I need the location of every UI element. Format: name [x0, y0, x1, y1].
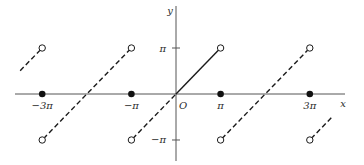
x-tick-label: −3π	[32, 100, 54, 111]
axes	[15, 6, 345, 161]
open-point	[128, 137, 134, 143]
segment-k-0-right	[176, 49, 219, 94]
x-tick-label: 3π	[303, 100, 316, 111]
x-tick-label: −π	[124, 100, 139, 111]
y-tick-label: −π	[151, 134, 166, 145]
x-axis-label: x	[340, 98, 346, 109]
segment-k-0-left	[133, 94, 176, 139]
labels: π−π−3π−ππ3πxyO	[32, 5, 347, 145]
segment-k-minus-2	[20, 49, 41, 70]
open-point	[217, 45, 223, 51]
open-point	[307, 45, 313, 51]
sawtooth-chart: π−π−3π−ππ3πxyO	[0, 0, 364, 165]
filled-point	[307, 91, 314, 98]
open-point	[39, 137, 45, 143]
filled-point	[39, 91, 46, 98]
y-axis-label: y	[166, 5, 173, 16]
origin-label: O	[179, 100, 187, 111]
open-point	[217, 137, 223, 143]
filled-point	[128, 91, 135, 98]
y-tick-label: π	[158, 43, 166, 54]
open-point	[39, 45, 45, 51]
x-tick-label: π	[216, 100, 224, 111]
segment-k-2	[311, 116, 333, 139]
open-point	[307, 137, 313, 143]
filled-point	[217, 91, 224, 98]
open-point	[128, 45, 134, 51]
